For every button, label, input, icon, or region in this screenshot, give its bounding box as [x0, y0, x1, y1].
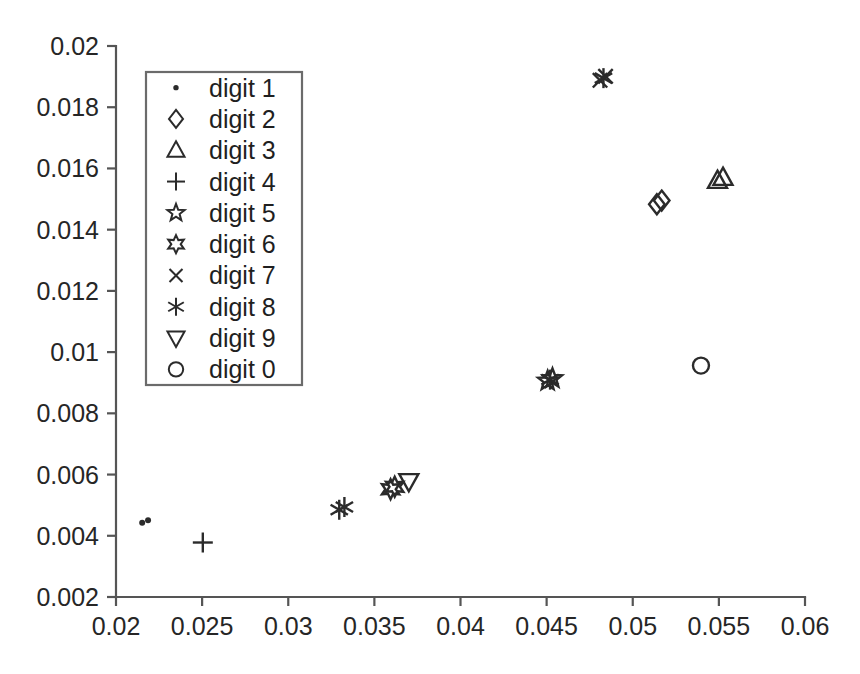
x-tick-label: 0.03 [264, 612, 313, 640]
legend-label: digit 5 [209, 199, 276, 227]
y-tick-label: 0.016 [36, 154, 99, 182]
x-tick-label: 0.045 [515, 612, 578, 640]
x-tick-label: 0.055 [688, 612, 751, 640]
data-point [139, 520, 145, 526]
legend-label: digit 2 [209, 105, 276, 133]
series-digit-3 [708, 168, 733, 188]
y-tick-label: 0.012 [36, 277, 99, 305]
legend-label: digit 0 [209, 355, 276, 383]
y-tick-label: 0.002 [36, 583, 99, 611]
plot-canvas: 0.0020.0040.0060.0080.010.0120.0140.0160… [0, 0, 860, 674]
y-tick-label: 0.014 [36, 216, 99, 244]
y-tick-label: 0.006 [36, 461, 99, 489]
y-tick-label: 0.01 [50, 338, 99, 366]
legend-label: digit 3 [209, 136, 276, 164]
data-point [193, 533, 213, 553]
legend-label: digit 8 [209, 293, 276, 321]
legend-label: digit 6 [209, 230, 276, 258]
x-tick-label: 0.05 [608, 612, 657, 640]
legend-label: digit 9 [209, 324, 276, 352]
x-tick-label: 0.04 [436, 612, 485, 640]
data-point [145, 517, 151, 523]
x-tick-label: 0.035 [343, 612, 406, 640]
data-point [693, 358, 709, 374]
series-digit-6 [382, 477, 403, 499]
y-tick-label: 0.018 [36, 93, 99, 121]
series-digit-2 [649, 191, 669, 215]
legend-label: digit 1 [209, 74, 276, 102]
scatter-plot-figure: 0.0020.0040.0060.0080.010.0120.0140.0160… [0, 0, 860, 674]
legend-label: digit 4 [209, 168, 276, 196]
y-tick-label: 0.004 [36, 522, 99, 550]
x-tick-label: 0.06 [781, 612, 830, 640]
x-tick-label: 0.025 [171, 612, 234, 640]
y-tick-label: 0.008 [36, 399, 99, 427]
series-digit-1 [139, 517, 151, 525]
x-tick-label: 0.02 [92, 612, 141, 640]
legend: digit 1digit 2digit 3digit 4digit 5digit… [146, 72, 302, 385]
y-axis-ticks: 0.0020.0040.0060.0080.010.0120.0140.0160… [36, 32, 116, 611]
y-tick-label: 0.02 [50, 32, 99, 60]
legend-label: digit 7 [209, 261, 276, 289]
series-digit-8 [331, 68, 613, 520]
series-digit-4 [193, 533, 213, 553]
x-axis-ticks: 0.020.0250.030.0350.040.0450.050.0550.06 [92, 597, 830, 640]
series-digit-0 [693, 358, 709, 374]
